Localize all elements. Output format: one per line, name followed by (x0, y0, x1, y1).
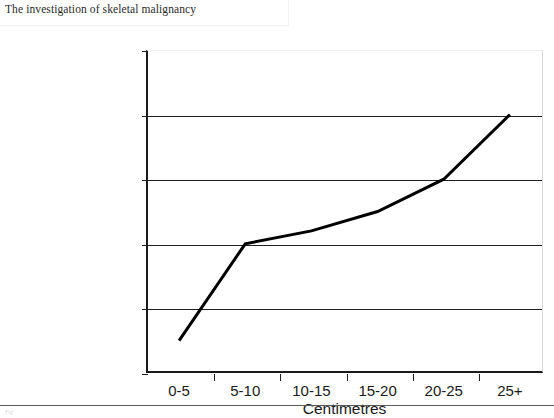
gridline-10.00% (148, 245, 542, 246)
x-tick (479, 374, 480, 381)
x-tick-label-20-25: 20-25 (425, 382, 463, 399)
gridline-5.00% (148, 309, 542, 310)
x-tick-label-5-10: 5-10 (230, 382, 260, 399)
y-tick (142, 374, 148, 375)
document-header-band: The investigation of skeletal malignancy (0, 0, 289, 26)
page-title: The investigation of skeletal malignancy (5, 3, 196, 15)
x-tick-label-25+: 25+ (497, 382, 522, 399)
y-tick (142, 51, 148, 52)
x-tick-label-15-20: 15-20 (358, 382, 396, 399)
footer-divider (0, 405, 554, 406)
x-tick-label-10-15: 10-15 (292, 382, 330, 399)
y-tick (142, 309, 148, 310)
y-tick (142, 180, 148, 181)
gridline-20.00% (148, 116, 542, 117)
x-axis-title: Centimetres (146, 400, 543, 418)
footer-mark: Fig (5, 409, 13, 415)
plot-area (146, 50, 543, 373)
x-tick-label-0-5: 0-5 (168, 382, 190, 399)
y-tick (142, 116, 148, 117)
y-tick (142, 245, 148, 246)
gridline-15.00% (148, 180, 542, 181)
x-tick (280, 374, 281, 381)
x-tick (347, 374, 348, 381)
x-tick (214, 374, 215, 381)
line-chart-figure: 0.00%5.00%10.00%15.00%20.00%25.00% 0-55-… (0, 26, 554, 406)
x-tick (413, 374, 414, 381)
